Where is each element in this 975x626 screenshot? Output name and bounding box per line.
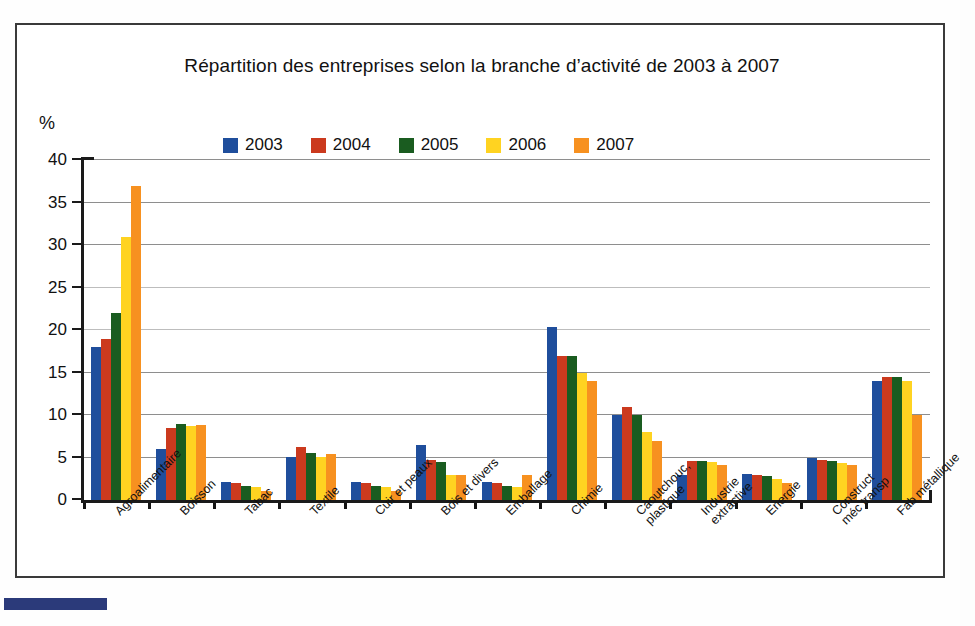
bar-group: [800, 160, 865, 500]
bar-2004[interactable]: [817, 460, 827, 500]
legend-swatch-icon: [399, 138, 414, 153]
bar-group: [735, 160, 800, 500]
bar-group: [344, 160, 409, 500]
bar-group: [83, 160, 148, 500]
bar-2004[interactable]: [296, 447, 306, 500]
bar-2003[interactable]: [351, 482, 361, 500]
legend-item-label: 2007: [596, 135, 634, 155]
bar-2004[interactable]: [101, 339, 111, 501]
legend-item-label: 2004: [333, 135, 371, 155]
y-tick-label-20: 20: [33, 320, 67, 340]
bar-2007[interactable]: [131, 186, 141, 501]
bottom-blue-bar: [4, 598, 107, 610]
chart-legend: 20032004200520062007: [223, 133, 743, 157]
bar-groups: [83, 160, 930, 500]
y-tick-label-15: 15: [33, 363, 67, 383]
bar-2005[interactable]: [306, 453, 316, 500]
bar-2003[interactable]: [221, 482, 231, 500]
bar-2005[interactable]: [827, 461, 837, 500]
legend-item-2007[interactable]: 2007: [574, 135, 634, 155]
bar-2003[interactable]: [482, 482, 492, 500]
bar-group: [669, 160, 734, 500]
legend-swatch-icon: [574, 138, 589, 153]
y-tick-label-40: 40: [33, 150, 67, 170]
y-axis-top-cap: [81, 157, 94, 160]
bar-group: [539, 160, 604, 500]
chart-page: Répartition des entreprises selon la bra…: [0, 0, 975, 626]
plot-area: 0510152025303540: [83, 160, 930, 500]
bar-2004[interactable]: [492, 483, 502, 500]
bar-2005[interactable]: [762, 476, 772, 500]
bar-2005[interactable]: [241, 486, 251, 500]
bar-group: [604, 160, 669, 500]
legend-item-2005[interactable]: 2005: [399, 135, 459, 155]
chart-frame: Répartition des entreprises selon la bra…: [15, 23, 945, 578]
bar-2003[interactable]: [807, 458, 817, 501]
bar-group: [409, 160, 474, 500]
y-tick-label-5: 5: [33, 448, 67, 468]
bar-2005[interactable]: [111, 313, 121, 500]
y-tick-label-0: 0: [33, 490, 67, 510]
bar-group: [865, 160, 930, 500]
y-tick-label-25: 25: [33, 278, 67, 298]
chart-title: Répartition des entreprises selon la bra…: [17, 55, 947, 77]
legend-item-2003[interactable]: 2003: [223, 135, 283, 155]
bar-2006[interactable]: [902, 381, 912, 500]
legend-item-2006[interactable]: 2006: [486, 135, 546, 155]
bar-2005[interactable]: [371, 486, 381, 500]
bar-group: [474, 160, 539, 500]
legend-swatch-icon: [486, 138, 501, 153]
bar-group: [148, 160, 213, 500]
legend-item-label: 2006: [508, 135, 546, 155]
bar-2004[interactable]: [231, 483, 241, 500]
bar-2005[interactable]: [892, 377, 902, 500]
legend-swatch-icon: [311, 138, 326, 153]
bar-2006[interactable]: [577, 373, 587, 501]
bar-group: [213, 160, 278, 500]
bar-2003[interactable]: [286, 457, 296, 500]
y-axis-unit-label: %: [39, 113, 55, 134]
y-tick-label-35: 35: [33, 193, 67, 213]
bar-2004[interactable]: [622, 407, 632, 501]
bar-2005[interactable]: [567, 356, 577, 501]
legend-item-label: 2005: [421, 135, 459, 155]
legend-item-label: 2003: [245, 135, 283, 155]
bar-2005[interactable]: [502, 486, 512, 500]
bar-2005[interactable]: [436, 462, 446, 500]
y-tick-label-30: 30: [33, 235, 67, 255]
bar-2003[interactable]: [612, 415, 622, 500]
legend-swatch-icon: [223, 138, 238, 153]
legend-item-2004[interactable]: 2004: [311, 135, 371, 155]
bar-2004[interactable]: [557, 356, 567, 501]
bar-2005[interactable]: [632, 415, 642, 500]
bar-group: [278, 160, 343, 500]
bar-2006[interactable]: [121, 237, 131, 501]
bar-2006[interactable]: [186, 426, 196, 500]
bar-2003[interactable]: [91, 347, 101, 500]
y-tick-label-10: 10: [33, 405, 67, 425]
bar-2004[interactable]: [361, 483, 371, 500]
y-axis-line: [81, 157, 84, 503]
x-axis-labels: AgroalimentaireBoissonTabacTextileCuir e…: [83, 509, 930, 604]
scan-edge: [960, 0, 975, 626]
x-axis-line: [81, 500, 932, 503]
